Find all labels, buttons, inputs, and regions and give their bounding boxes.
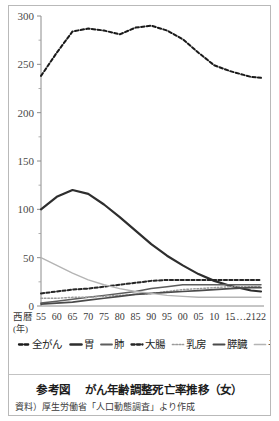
x-tick-label: 95 <box>162 311 172 322</box>
y-tick-label: 50 <box>23 252 35 264</box>
legend-label-全がん: 全がん <box>32 338 62 350</box>
x-tick-label: 80 <box>115 311 125 322</box>
x-axis-gap-marker: …… <box>230 311 250 322</box>
x-axis-prefix-label: 西暦 <box>13 312 33 322</box>
caption-title: がん年齢調整死亡率推移（女） <box>85 384 243 396</box>
figure-container: 050100150200250300西暦55606570758085909500… <box>0 0 279 421</box>
legend-label-胃: 胃 <box>84 339 94 350</box>
source-note: 資料）厚生労働省「人口動態調査」より作成 <box>9 400 270 413</box>
y-tick-label: 250 <box>18 58 35 70</box>
x-tick-label: 70 <box>83 311 93 322</box>
x-tick-label: 65 <box>68 311 78 322</box>
series-line-胃 <box>41 190 261 292</box>
legend-label-肺: 肺 <box>114 339 125 350</box>
cancer-mortality-line-chart: 050100150200250300西暦55606570758085909500… <box>9 6 270 373</box>
series-line-全がん <box>41 26 261 78</box>
legend-label-子宮: 子宮 <box>268 338 271 350</box>
legend-label-大腸: 大腸 <box>145 338 166 350</box>
x-tick-label: 90 <box>146 311 156 322</box>
y-tick-label: 100 <box>18 203 35 215</box>
y-tick-label: 300 <box>18 10 35 22</box>
x-tick-label: 22 <box>256 311 266 322</box>
legend-label-乳房: 乳房 <box>186 338 206 350</box>
x-tick-label: 85 <box>131 311 141 322</box>
y-tick-label: 200 <box>18 107 35 119</box>
legend-label-膵臓: 膵臓 <box>227 339 248 350</box>
caption-divider <box>9 374 270 375</box>
x-tick-label: 10 <box>209 311 219 322</box>
chart-plot-area: 050100150200250300西暦55606570758085909500… <box>9 6 270 373</box>
x-axis-unit-label: (年) <box>13 323 28 334</box>
y-tick-label: 0 <box>29 300 35 312</box>
x-tick-label: 55 <box>36 311 46 322</box>
x-tick-label: 75 <box>99 311 109 322</box>
figure-caption: 参考図 がん年齢調整死亡率推移（女） <box>9 381 270 397</box>
x-tick-label: 60 <box>52 311 62 322</box>
x-tick-label: 00 <box>178 311 188 322</box>
caption-block: 参考図 がん年齢調整死亡率推移（女） 資料）厚生労働省「人口動態調査」より作成 <box>9 378 270 413</box>
series-line-子宮 <box>41 258 261 298</box>
y-tick-label: 150 <box>18 155 35 167</box>
x-tick-label: 05 <box>194 311 204 322</box>
caption-label: 参考図 <box>36 384 70 396</box>
